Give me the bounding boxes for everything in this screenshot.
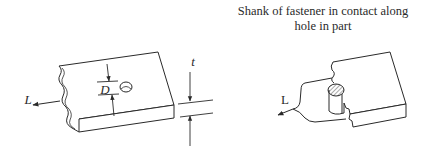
load-label-left: L (23, 92, 31, 107)
fastener-section (328, 84, 344, 96)
plate-with-hole (59, 52, 174, 132)
diagram-canvas: D t L L (0, 0, 426, 157)
diameter-label: D (99, 82, 110, 97)
load-label-right: L (281, 92, 289, 107)
load-arrow-left (33, 101, 60, 105)
plate-with-fastener (293, 52, 406, 127)
load-arrow-right (278, 109, 293, 115)
thickness-dimension (178, 72, 213, 146)
thickness-label: t (191, 54, 195, 69)
